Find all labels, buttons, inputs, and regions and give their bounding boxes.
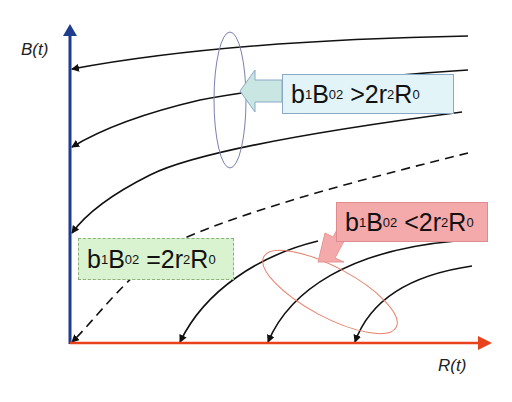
annotation-eq: b1B02 =2r2R0 [78,238,234,280]
formula-part: 2 [183,252,190,267]
formula-part: 0 [412,87,419,102]
phase-diagram [0,0,512,402]
formula-part: >2r [343,80,387,109]
formula-part: 2 [336,87,343,102]
annotation-gt: b1B02 >2r2R0 [282,74,454,114]
formula-part: 2 [387,87,394,102]
formula-part: R [190,245,208,274]
formula-part: 1 [305,87,312,102]
annotation-lt: b1B02 <2r2R0 [336,202,488,242]
formula-part: 0 [329,87,336,102]
formula-part: 0 [383,215,390,230]
formula-part: R [394,80,412,109]
formula-part: b [345,208,359,237]
formula-part: R [448,208,466,237]
formula-part: 2 [390,215,397,230]
y-axis-arrowhead [63,24,77,36]
formula-part: 0 [208,252,215,267]
trajectory-1 [72,36,468,69]
formula-part: B [108,245,125,274]
formula-part: =2r [139,245,183,274]
x-axis-arrowhead [478,336,492,350]
formula-part: 2 [132,252,139,267]
x-axis-label: R(t) [438,356,466,376]
formula-part: b [87,245,101,274]
formula-part: B [312,80,329,109]
formula-part: <2r [397,208,441,237]
ellipse-upper-group [214,32,246,168]
formula-part: B [366,208,383,237]
formula-part: 0 [125,252,132,267]
formula-part: 0 [466,215,473,230]
formula-part: 1 [101,252,108,267]
formula-part: 1 [359,215,366,230]
y-axis-label: B(t) [21,40,48,60]
formula-part: b [291,80,305,109]
trajectory-6 [355,266,472,342]
formula-part: 2 [441,215,448,230]
